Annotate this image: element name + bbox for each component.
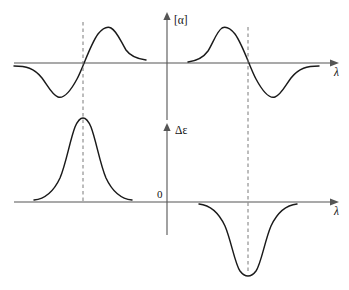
cotton-effect-figure: [α] λ Δε λ 0 bbox=[0, 0, 349, 290]
ord-x-axis-label: λ bbox=[333, 66, 339, 78]
ord-curve-left bbox=[14, 27, 146, 97]
figure-canvas: [α] λ Δε λ 0 bbox=[0, 0, 349, 290]
cd-curve-right bbox=[199, 204, 297, 276]
origin-label: 0 bbox=[157, 188, 163, 200]
cd-panel: Δε λ 0 bbox=[14, 118, 339, 276]
cd-y-axis-label: Δε bbox=[175, 124, 187, 136]
ord-y-axis-label: [α] bbox=[174, 14, 188, 26]
ord-y-axis-arrowhead bbox=[163, 12, 170, 20]
ord-curve-right bbox=[188, 27, 319, 97]
marker-lines bbox=[83, 22, 248, 272]
ord-panel: [α] λ bbox=[14, 12, 339, 120]
cd-y-axis-arrowhead bbox=[163, 123, 170, 131]
cd-x-axis-label: λ bbox=[333, 205, 339, 217]
